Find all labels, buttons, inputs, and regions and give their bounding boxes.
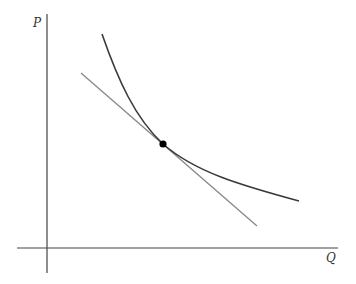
y-axis-label: P	[32, 16, 42, 30]
tangency-point	[159, 140, 166, 147]
x-axis-label: Q	[326, 251, 336, 265]
tangency-diagram: P Q	[0, 0, 356, 284]
